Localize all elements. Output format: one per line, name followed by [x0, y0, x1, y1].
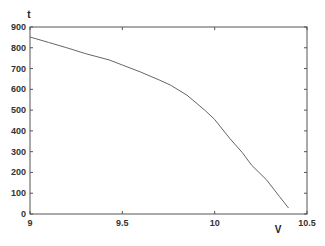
plot-frame — [30, 27, 307, 214]
y-tick-label: 0 — [21, 209, 26, 219]
y-tick-label: 100 — [11, 188, 26, 198]
x-tick-label: 9 — [27, 218, 32, 228]
data-line — [30, 37, 289, 208]
y-tick-label: 400 — [11, 126, 26, 136]
line-chart: 0100200300400500600700800900 99.51010.5 … — [0, 0, 325, 246]
x-tick-label: 9.5 — [116, 218, 129, 228]
x-tick-label: 10.5 — [298, 218, 316, 228]
y-tick-label: 300 — [11, 147, 26, 157]
y-tick-label: 900 — [11, 22, 26, 32]
x-axis-ticks: 99.51010.5 — [27, 27, 315, 228]
x-axis-label: V — [275, 224, 282, 235]
y-tick-label: 800 — [11, 43, 26, 53]
y-axis-ticks: 0100200300400500600700800900 — [11, 22, 307, 219]
y-tick-label: 600 — [11, 84, 26, 94]
x-tick-label: 10 — [210, 218, 220, 228]
y-tick-label: 700 — [11, 64, 26, 74]
y-axis-label: t — [27, 9, 31, 20]
y-tick-label: 200 — [11, 167, 26, 177]
y-tick-label: 500 — [11, 105, 26, 115]
